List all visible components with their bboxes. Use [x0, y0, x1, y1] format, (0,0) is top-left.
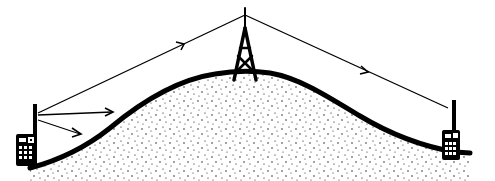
- handheld-radio-left-icon: [16, 104, 37, 166]
- handheld-radio-right-icon: [442, 100, 460, 160]
- signal-left-blocked-1: [38, 112, 112, 115]
- signal-left-blocked-2: [38, 120, 80, 134]
- radio-line-of-sight-diagram: [0, 0, 495, 181]
